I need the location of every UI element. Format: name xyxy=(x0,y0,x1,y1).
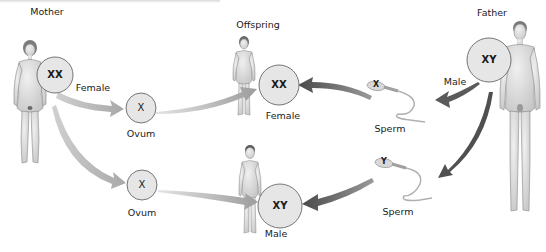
ovum-bottom-label: Ovum xyxy=(128,207,156,218)
mother-figure xyxy=(14,40,46,163)
ovum-bottom-chromosome: X xyxy=(139,179,146,190)
girl-chromosomes: XX xyxy=(271,79,286,90)
offspring-female-label: Female xyxy=(266,110,300,121)
sperm-bottom-chromosome: Y xyxy=(381,157,387,166)
offspring-male-label: Male xyxy=(265,228,288,239)
boy-chromosomes: XY xyxy=(273,200,288,211)
ovum-top-label: Ovum xyxy=(127,128,155,139)
ovum-top-chromosome: X xyxy=(138,102,145,113)
sperm-top-chromosome: X xyxy=(373,80,379,89)
mother-label: Mother xyxy=(30,6,64,17)
sperm-bottom-label: Sperm xyxy=(383,206,414,217)
father-chromosomes: XY xyxy=(482,54,497,65)
boy-figure xyxy=(239,145,261,233)
sex-determination-diagram: Mother XX Female X Ovum X Ovum Offspring… xyxy=(0,0,546,252)
sperm-top-label: Sperm xyxy=(375,123,406,134)
father-label: Father xyxy=(477,7,507,18)
paternal-arrows xyxy=(298,77,493,211)
diagram-graphics xyxy=(0,0,546,252)
mother-chromosomes: XX xyxy=(47,69,62,80)
offspring-label: Offspring xyxy=(236,19,280,30)
girl-figure xyxy=(233,36,255,115)
father-arrow-label: Male xyxy=(444,76,467,87)
mother-arrow-label: Female xyxy=(76,82,110,93)
